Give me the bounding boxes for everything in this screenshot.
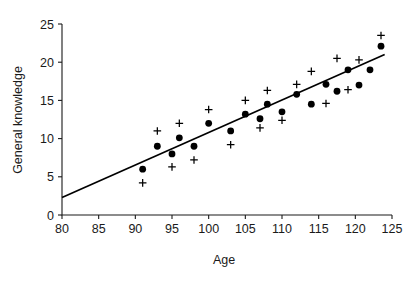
data-point-circle bbox=[334, 88, 341, 95]
data-point-plus bbox=[264, 87, 272, 95]
regression-line-group bbox=[62, 55, 385, 198]
x-axis-title: Age bbox=[213, 253, 235, 267]
data-point-circle bbox=[205, 120, 212, 127]
data-point-circle bbox=[169, 150, 176, 157]
data-point-plus bbox=[377, 32, 385, 40]
data-point-circle bbox=[378, 43, 385, 50]
axis-lines bbox=[62, 24, 392, 215]
data-point-circle bbox=[279, 108, 286, 115]
data-point-circle bbox=[257, 115, 264, 122]
data-point-circle bbox=[323, 81, 330, 88]
data-point-plus bbox=[168, 163, 176, 171]
data-point-circle bbox=[154, 143, 161, 150]
data-point-plus bbox=[322, 100, 330, 108]
data-point-circle bbox=[242, 111, 249, 118]
data-point-plus bbox=[139, 179, 147, 187]
data-point-plus bbox=[293, 81, 301, 89]
y-tick-label: 15 bbox=[40, 94, 54, 108]
y-tick-label: 5 bbox=[47, 170, 54, 184]
data-point-plus bbox=[355, 56, 363, 64]
x-tick-label: 90 bbox=[128, 222, 142, 236]
data-point-plus bbox=[242, 97, 250, 105]
plot-canvas: 0510152025 80859095100105110115120125 Ag… bbox=[0, 0, 418, 282]
data-point-circle bbox=[139, 166, 146, 173]
circle-marker-group bbox=[139, 43, 384, 173]
data-point-plus bbox=[308, 68, 316, 76]
x-tick-label: 110 bbox=[272, 222, 292, 236]
tick-mark-group bbox=[58, 24, 392, 219]
x-tick-label: 105 bbox=[235, 222, 256, 236]
y-tick-label: 10 bbox=[40, 132, 54, 146]
data-point-circle bbox=[356, 82, 363, 89]
data-point-plus bbox=[227, 141, 235, 149]
x-tick-label-group: 80859095100105110115120125 bbox=[55, 222, 402, 236]
data-point-plus bbox=[154, 127, 162, 135]
x-tick-label: 85 bbox=[92, 222, 106, 236]
x-tick-label: 100 bbox=[198, 222, 219, 236]
data-point-plus bbox=[344, 86, 352, 94]
data-point-circle bbox=[293, 91, 300, 98]
data-point-circle bbox=[191, 143, 198, 150]
data-point-plus bbox=[190, 156, 198, 164]
x-tick-label: 120 bbox=[345, 222, 366, 236]
scatter-plot-figure: 0510152025 80859095100105110115120125 Ag… bbox=[0, 0, 418, 282]
y-tick-label-group: 0510152025 bbox=[40, 18, 54, 223]
data-point-plus bbox=[176, 120, 184, 128]
axis-line-group bbox=[62, 24, 392, 215]
x-tick-label: 95 bbox=[165, 222, 179, 236]
data-point-plus bbox=[205, 106, 213, 114]
x-tick-label: 80 bbox=[55, 222, 69, 236]
data-point-circle bbox=[176, 134, 183, 141]
data-point-circle bbox=[227, 128, 234, 135]
data-point-plus bbox=[256, 124, 264, 132]
y-axis-title: General knowledge bbox=[11, 66, 25, 174]
data-point-circle bbox=[264, 101, 271, 108]
y-tick-label: 20 bbox=[40, 56, 54, 70]
regression-line bbox=[62, 55, 385, 198]
data-point-plus bbox=[278, 116, 286, 124]
y-tick-label: 0 bbox=[47, 209, 54, 223]
y-tick-label: 25 bbox=[40, 18, 54, 32]
data-point-circle bbox=[345, 66, 352, 73]
x-tick-label: 125 bbox=[382, 222, 403, 236]
data-point-circle bbox=[367, 66, 374, 73]
data-point-circle bbox=[308, 101, 315, 108]
x-tick-label: 115 bbox=[309, 222, 329, 236]
data-point-plus bbox=[333, 55, 341, 63]
